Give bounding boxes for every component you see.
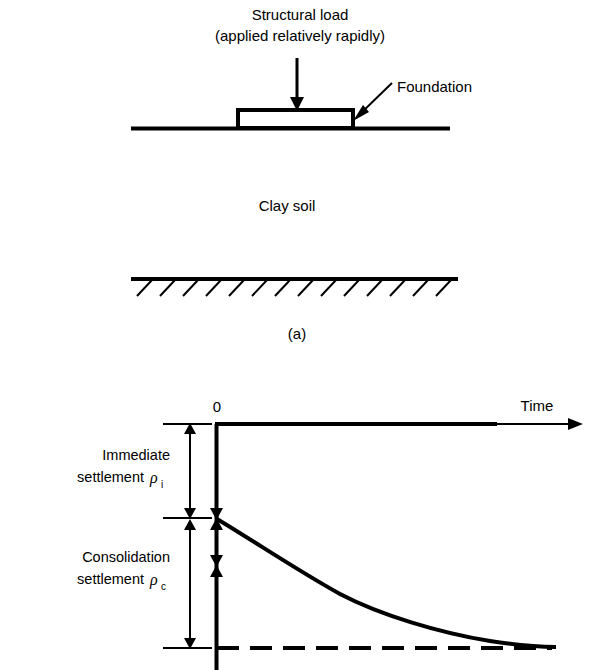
consolidation-settlement-label-line1: Consolidation xyxy=(82,549,170,565)
immediate-settlement-rho-subscript: i xyxy=(161,479,163,490)
immediate-settlement-word: settlement xyxy=(77,469,144,485)
clay-soil-label: Clay soil xyxy=(259,197,316,214)
immediate-settlement-label-line1: Immediate xyxy=(102,447,170,463)
immediate-settlement-rho-symbol: ρ xyxy=(149,469,158,487)
immediate-settlement-label-line2: settlement ρ i xyxy=(77,469,163,490)
time-axis xyxy=(215,418,583,430)
consolidation-settlement-curve xyxy=(217,519,556,647)
foundation-block xyxy=(238,110,353,128)
rigid-boundary-hatching xyxy=(131,279,458,296)
immediate-settlement-dimension xyxy=(184,423,196,519)
foundation-leader-line xyxy=(353,83,392,121)
settlement-figure: Structural load (applied relatively rapi… xyxy=(0,0,600,670)
structural-load-title-line1: Structural load xyxy=(252,6,349,23)
part-a-caption: (a) xyxy=(288,325,306,342)
structural-load-title-line2: (applied relatively rapidly) xyxy=(215,27,385,44)
structural-load-arrow-icon xyxy=(290,58,304,111)
settlement-time-plot: 0 Time xyxy=(77,397,583,670)
time-axis-label: Time xyxy=(521,397,554,414)
consolidation-settlement-rho-subscript: c xyxy=(161,581,166,592)
figure-canvas: Structural load (applied relatively rapi… xyxy=(0,0,600,670)
foundation-label: Foundation xyxy=(397,78,472,95)
consolidation-settlement-rho-symbol: ρ xyxy=(149,571,158,589)
consolidation-settlement-label-line2: settlement ρ c xyxy=(77,571,166,592)
consolidation-settlement-dimension xyxy=(184,519,196,649)
consolidation-settlement-word: settlement xyxy=(77,571,144,587)
origin-label: 0 xyxy=(213,398,221,415)
part-a-diagram: Structural load (applied relatively rapi… xyxy=(131,6,472,342)
dimension-ticks xyxy=(163,424,212,648)
